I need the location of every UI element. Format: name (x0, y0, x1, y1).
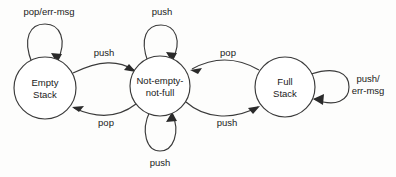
state-diagram: Empty Stack Not-empty- not-full Full Sta… (0, 0, 396, 177)
transition-label-full-self-loop-line2: err-msg (352, 85, 385, 96)
transition-label-middle-to-empty: pop (98, 117, 114, 128)
full-to-middle-path (192, 60, 259, 70)
full-to-middle-arrowhead (190, 68, 202, 74)
state-node-empty[interactable]: Empty Stack (14, 57, 76, 119)
state-diagram-canvas: Empty Stack Not-empty- not-full Full Sta… (0, 0, 396, 177)
transition-label-empty-to-middle: push (94, 47, 115, 58)
state-node-not-empty-not-full[interactable]: Not-empty- not-full (130, 56, 190, 116)
state-label-empty-line1: Empty (32, 77, 59, 88)
state-circle-empty[interactable] (14, 57, 76, 119)
empty-to-middle-path (73, 63, 134, 73)
transition-label-middle-self-loop-top: push (152, 6, 173, 17)
transition-label-middle-self-loop-bottom: push (150, 157, 171, 168)
transition-full-to-middle (190, 60, 259, 74)
middle-to-full-path (186, 102, 258, 116)
transition-middle-to-empty (72, 104, 136, 115)
middle-to-full-arrowhead (248, 106, 260, 114)
transition-label-empty-self-loop: pop/err-msg (23, 6, 74, 17)
full-self-loop-arrowhead (313, 94, 324, 105)
transition-label-full-self-loop-line1: push/ (356, 73, 380, 84)
state-circle-full[interactable] (255, 57, 315, 117)
transition-label-middle-to-full: push (217, 117, 238, 128)
state-label-full-line2: Stack (273, 88, 297, 99)
transition-middle-to-full (186, 102, 260, 116)
state-label-not-empty-not-full-line1: Not-empty- (137, 75, 184, 86)
state-label-full-line1: Full (277, 76, 292, 87)
transition-full-self-loop (311, 71, 349, 105)
transition-empty-to-middle (73, 63, 136, 73)
transition-middle-self-loop-bottom (145, 111, 177, 151)
transition-label-full-to-middle: pop (220, 47, 236, 58)
middle-to-empty-path (74, 104, 136, 115)
state-label-empty-line2: Stack (33, 89, 57, 100)
state-circle-not-empty-not-full[interactable] (130, 56, 190, 116)
state-node-full[interactable]: Full Stack (255, 57, 315, 117)
state-label-not-empty-not-full-line2: not-full (146, 87, 175, 98)
